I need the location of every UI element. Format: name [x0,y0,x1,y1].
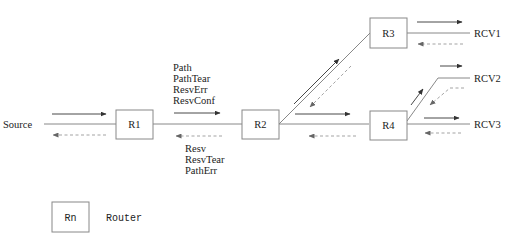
legend: Rn Router [52,202,142,232]
message-pathtear: PathTear [173,73,211,84]
message-resvconf: ResvConf [173,95,216,106]
arrow-diagonal-up-icon [294,59,339,104]
rsvp-message-flow-diagram: R1 R2 R3 R4 Source RCV1 RCV2 RCV3 [0,0,512,249]
message-path: Path [173,62,192,73]
message-resvtear: ResvTear [185,154,225,165]
rcv1-label: RCV1 [474,28,501,39]
router-r1: R1 [116,110,153,139]
router-r4: R4 [370,111,407,140]
message-resverr: ResvErr [173,84,208,95]
router-r3-label: R3 [382,28,394,39]
router-r1-label: R1 [128,119,140,130]
router-r2-label: R2 [254,119,266,130]
link-r2-r3 [279,33,370,124]
router-r3: R3 [370,18,407,48]
diagram-svg: R1 R2 R3 R4 Source RCV1 RCV2 RCV3 [0,0,512,249]
rcv2-label: RCV2 [474,73,501,84]
message-resv: Resv [185,143,207,154]
legend-symbol-label: Rn [64,213,76,224]
router-r2: R2 [242,110,279,139]
upstream-messages-list: Resv ResvTear PathErr [185,143,225,176]
source-label: Source [3,119,32,130]
router-r4-label: R4 [382,120,395,131]
legend-router-label: Router [106,213,142,224]
link-r4-rcv2 [407,78,470,121]
arrow-diagonal-up-icon [411,89,423,105]
downstream-messages-list: Path PathTear ResvErr ResvConf [173,62,216,106]
message-patherr: PathErr [185,165,218,176]
rcv3-label: RCV3 [474,119,501,130]
arrow-bent-down-dashed-icon [430,88,464,105]
